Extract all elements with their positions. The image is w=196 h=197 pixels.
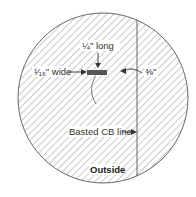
label-basted-cb-line: Basted CB line xyxy=(69,126,132,137)
buttonhole-mark xyxy=(87,70,107,75)
hatched-circle xyxy=(18,13,188,183)
label-outside: Outside xyxy=(90,164,125,175)
label-offset: ⅜" xyxy=(145,66,156,77)
circle-diagram: ¼" long ¹⁄₁₆" wide ⅜" Basted CB line Out… xyxy=(0,0,196,197)
label-long: ¼" long xyxy=(82,40,114,51)
label-wide: ¹⁄₁₆" wide xyxy=(34,66,71,77)
